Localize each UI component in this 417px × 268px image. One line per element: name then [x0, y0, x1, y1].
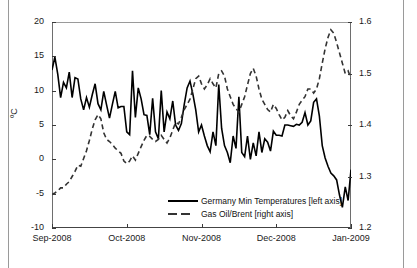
x-tick-mark: [202, 224, 203, 228]
figure-border-right: [403, 0, 404, 268]
series-line-gas-oil-brent: [52, 30, 351, 195]
y-tick-label-left: 5: [0, 120, 44, 129]
y-tick-mark-left: [52, 159, 56, 160]
y-tick-label-right: 1.5: [359, 69, 389, 78]
chart-figure: ºC -10-505101520 1.21.31.41.51.6 Sep-200…: [0, 0, 417, 268]
x-tick-mark: [127, 224, 128, 228]
y-tick-mark-right: [348, 228, 352, 229]
y-axis-label: ºC: [9, 108, 19, 118]
x-tick-mark: [276, 224, 277, 228]
legend-item-gas-oil-brent: Gas Oil/Brent [right axis]: [168, 207, 342, 220]
y-tick-mark-left: [52, 91, 56, 92]
y-tick-mark-left: [52, 56, 56, 57]
y-tick-label-left: 20: [0, 17, 44, 26]
x-tick-label: Jan-2009: [319, 233, 383, 243]
x-tick-label: Sep-2008: [20, 233, 84, 243]
y-tick-label-right: 1.2: [359, 223, 389, 232]
y-tick-label-left: 0: [0, 154, 44, 163]
legend-label-temperatures: Germany Min Temperatures [left axis]: [201, 196, 342, 206]
x-tick-label: Oct-2008: [95, 233, 159, 243]
y-tick-label-right: 1.6: [359, 17, 389, 26]
y-tick-label-left: 10: [0, 86, 44, 95]
y-tick-label-right: 1.4: [359, 120, 389, 129]
y-tick-label-left: 15: [0, 51, 44, 60]
chart-legend: Germany Min Temperatures [left axis] Gas…: [168, 194, 342, 220]
y-tick-mark-left: [52, 22, 56, 23]
legend-swatch-dashed-icon: [168, 209, 198, 219]
y-tick-label-left: -5: [0, 189, 44, 198]
x-tick-label: Nov-2008: [170, 233, 234, 243]
y-tick-mark-right: [348, 74, 352, 75]
y-tick-mark-left: [52, 228, 56, 229]
y-tick-mark-left: [52, 125, 56, 126]
x-tick-label: Dec-2008: [244, 233, 308, 243]
series-line-germany-min-temperatures: [52, 57, 351, 207]
y-tick-label-right: 1.3: [359, 172, 389, 181]
y-tick-mark-right: [348, 125, 352, 126]
legend-item-temperatures: Germany Min Temperatures [left axis]: [168, 194, 342, 207]
legend-swatch-solid-icon: [168, 196, 198, 206]
y-tick-mark-left: [52, 194, 56, 195]
y-tick-mark-right: [348, 177, 352, 178]
y-tick-label-left: -10: [0, 223, 44, 232]
legend-label-gas-oil-brent: Gas Oil/Brent [right axis]: [201, 209, 293, 219]
x-tick-mark: [52, 224, 53, 228]
x-tick-mark: [351, 224, 352, 228]
y-tick-mark-right: [348, 22, 352, 23]
